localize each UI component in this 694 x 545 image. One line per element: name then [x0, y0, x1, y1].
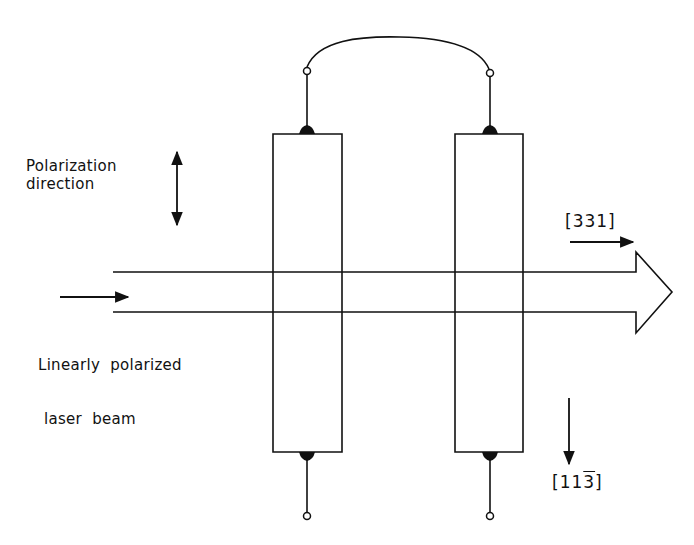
connecting-wire-arc — [307, 37, 489, 69]
top-left-contact-icon — [299, 125, 315, 134]
bottom-left-terminal-icon — [304, 513, 311, 520]
top-left-terminal-icon — [304, 68, 311, 75]
beam-label-line1: Linearly polarized — [38, 356, 182, 374]
top-right-terminal-icon — [487, 70, 494, 77]
miller-prefix: [11 — [552, 472, 583, 492]
bottom-right-terminal-icon — [487, 513, 494, 520]
miller-suffix: ] — [595, 472, 603, 492]
top-right-contact-icon — [482, 125, 498, 134]
laser-beam-arrow — [113, 252, 672, 333]
laser-beam-label: Linearly polarized laser beam — [38, 320, 182, 446]
direction-113bar-label: [113] — [552, 472, 603, 492]
polarization-direction-label: Polarization direction — [26, 157, 117, 193]
miller-overbar-digit: 3 — [583, 472, 595, 492]
right-crystal — [455, 134, 523, 452]
beam-label-line2: laser beam — [38, 410, 182, 428]
polarization-label-line1: Polarization — [26, 157, 117, 175]
left-crystal — [273, 134, 342, 452]
polarization-label-line2: direction — [26, 175, 117, 193]
direction-331-label: [331] — [565, 211, 616, 231]
crystal-electrode-diagram — [0, 0, 694, 545]
